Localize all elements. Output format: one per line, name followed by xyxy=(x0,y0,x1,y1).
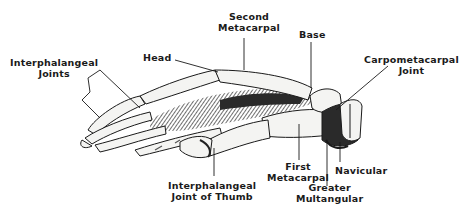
label-line-2: Metacarpal xyxy=(218,22,280,33)
label-line-1: Carpometacarpal xyxy=(364,54,459,65)
label-navicular: Navicular xyxy=(335,165,387,176)
label-first-metacarpal: First Metacarpal xyxy=(267,161,329,183)
label-line-1: Interphalangeal xyxy=(168,180,256,191)
hand-bone-diagram: Interphalangeal Joints Head Second Metac… xyxy=(0,0,460,220)
label-carpometacarpal-joint: Carpometacarpal Joint xyxy=(364,54,459,76)
label-line-1: First xyxy=(267,161,329,172)
label-head: Head xyxy=(143,52,171,63)
label-line-2: Joint xyxy=(364,65,459,76)
label-interphalangeal-joints: Interphalangeal Joints xyxy=(10,57,98,79)
label-line-2: Joints xyxy=(10,68,98,79)
label-interphalangeal-joint-of-thumb: Interphalangeal Joint of Thumb xyxy=(168,180,256,202)
label-greater-multangular: Greater Multangular xyxy=(296,182,363,204)
label-line-2: Joint of Thumb xyxy=(168,191,256,202)
label-line-1: Second xyxy=(218,11,280,22)
label-base: Base xyxy=(299,29,326,40)
label-line-2: Multangular xyxy=(296,193,363,204)
label-line-1: Interphalangeal xyxy=(10,57,98,68)
label-second-metacarpal: Second Metacarpal xyxy=(218,11,280,33)
label-line-1: Greater xyxy=(296,182,363,193)
